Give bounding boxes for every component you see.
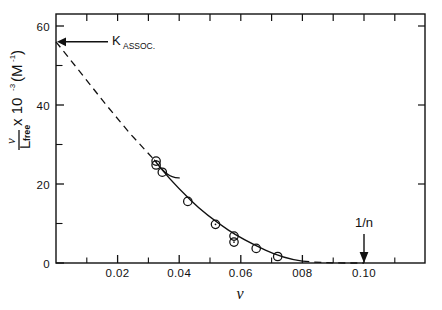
y-axis-label-tail-exponent: -3: [8, 83, 17, 91]
y-tick-label-40: 40: [36, 100, 50, 112]
y-axis-label-tail: x 10: [8, 98, 25, 126]
top-axis-ticks: [87, 14, 395, 21]
y-axis-minor-ticks: [56, 66, 63, 224]
y-tick-label-0: 0: [43, 258, 50, 270]
extrapolation-dashed-upper: [56, 42, 155, 161]
right-axis-ticks: [418, 26, 425, 184]
x-axis-label: ν: [236, 285, 244, 302]
x-tick-label-0: 0.02: [106, 267, 130, 279]
x-tick-label-3: 008: [292, 267, 312, 279]
x-tick-labels: 0.02 0.04 0.06 008 0.10: [106, 267, 376, 279]
one-over-n-annotation: 1/n: [355, 215, 373, 263]
y-axis-label-units-close: ): [8, 50, 25, 55]
figure-container: 0.02 0.04 0.06 008 0.10 60 40 20 0 ν x 1…: [0, 0, 442, 310]
one-over-n-label: 1/n: [355, 215, 373, 230]
scatchard-plot: 0.02 0.04 0.06 008 0.10 60 40 20 0 ν x 1…: [0, 0, 442, 310]
data-point: [184, 197, 192, 205]
x-tick-label-2: 0.06: [229, 267, 253, 279]
k-assoc-label: K: [112, 33, 121, 48]
one-over-n-arrowhead: [360, 252, 369, 263]
y-axis-label-units-open: (M: [8, 65, 25, 83]
x-axis-major-ticks: [118, 255, 364, 263]
x-tick-label-1: 0.04: [167, 267, 191, 279]
k-assoc-label-subscript: ASSOC.: [123, 41, 155, 51]
y-tick-label-20: 20: [36, 179, 50, 191]
y-tick-label-60: 60: [36, 21, 50, 33]
data-points: [152, 157, 282, 261]
x-tick-label-4: 0.10: [352, 267, 376, 279]
fitted-curve-solid: [155, 160, 303, 261]
y-axis-label-denominator-subscript: free: [22, 125, 32, 141]
data-point-centers: [155, 160, 235, 243]
y-axis-label: x 10 -3 (M -1 ) ν L free: [3, 50, 33, 150]
k-assoc-annotation: K ASSOC.: [57, 33, 155, 51]
y-tick-labels: 60 40 20 0: [36, 21, 50, 270]
